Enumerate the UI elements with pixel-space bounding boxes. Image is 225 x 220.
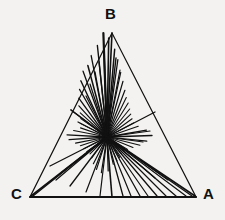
geometric-figure: B C A xyxy=(0,0,225,220)
ray-base-2 xyxy=(107,137,166,196)
triangle-diagram-svg xyxy=(0,0,225,220)
vertex-label-c: C xyxy=(11,186,22,201)
vertex-label-b: B xyxy=(105,6,116,21)
vertex-label-a: A xyxy=(203,186,214,201)
